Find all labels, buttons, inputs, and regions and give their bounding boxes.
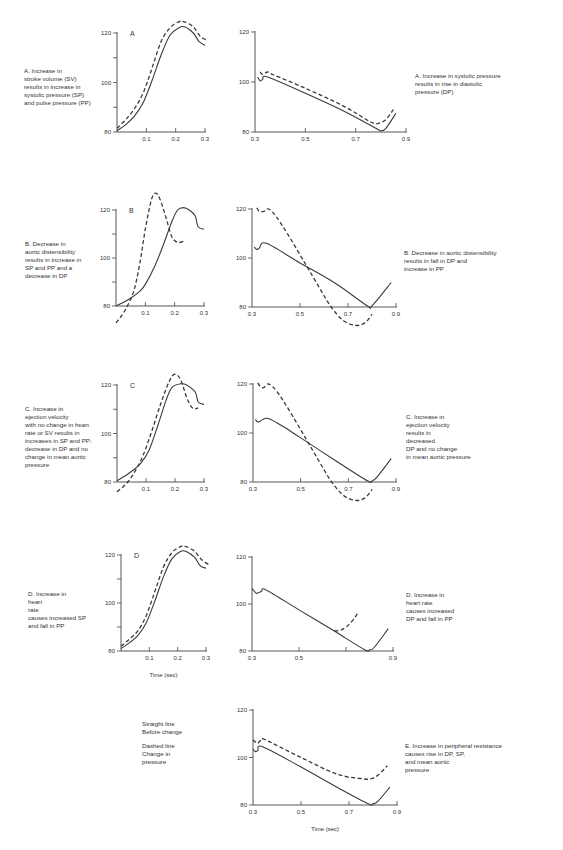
y-tick-label: 80 bbox=[104, 479, 111, 485]
y-tick-label: 100 bbox=[101, 80, 112, 86]
x-tick-label: 0.3 bbox=[248, 311, 257, 317]
x-tick-label: 0.7 bbox=[344, 311, 353, 317]
y-tick-label: 120 bbox=[105, 552, 116, 558]
legend-dashed-line: Dashed line Change in pressure bbox=[142, 742, 175, 766]
caption-e-right: E. Increase in peripheral resistance cau… bbox=[405, 742, 502, 774]
legend-solid-line: Straight line Before change bbox=[142, 720, 182, 736]
x-tick-label: 0.5 bbox=[297, 809, 306, 815]
chart-D-diastole: 801001200.50.90.3 bbox=[236, 554, 398, 661]
y-tick-label: 80 bbox=[239, 304, 246, 310]
x-tick-label: 0.3 bbox=[249, 486, 258, 492]
chart-D-systole: 801001200.10.20.3DTime (sec) bbox=[105, 546, 211, 678]
y-tick-label: 100 bbox=[105, 600, 116, 606]
x-tick-label: 0.5 bbox=[296, 311, 305, 317]
solid-curve-before-change bbox=[252, 589, 388, 652]
solid-curve-before-change bbox=[258, 76, 396, 131]
x-tick-label: 0.1 bbox=[142, 136, 151, 142]
solid-curve-before-change bbox=[117, 384, 204, 481]
chart-C-systole: 801001200.10.20.3C bbox=[101, 374, 209, 492]
x-tick-label: 0.1 bbox=[142, 486, 151, 492]
y-tick-label: 100 bbox=[101, 431, 112, 437]
caption-c-right: C. Increase in ejection velocity results… bbox=[406, 413, 471, 461]
y-tick-label: 100 bbox=[236, 601, 247, 607]
caption-d-right: D. Increase in heart rate causes increas… bbox=[406, 591, 454, 623]
x-tick-label: 0.3 bbox=[200, 310, 209, 316]
solid-curve-before-change bbox=[255, 418, 391, 482]
y-tick-label: 100 bbox=[237, 430, 248, 436]
x-tick-label: 0.5 bbox=[301, 136, 310, 142]
x-tick-label: 0.1 bbox=[141, 310, 150, 316]
x-tick-label: 0.3 bbox=[248, 655, 257, 661]
dashed-curve-after-change bbox=[116, 193, 184, 323]
caption-b-left: B. Decrease in aortic distensibility res… bbox=[25, 240, 81, 280]
caption-c-left: C. Increase in ejection velocity with no… bbox=[25, 405, 92, 469]
x-tick-label: 0.5 bbox=[296, 486, 305, 492]
y-tick-label: 120 bbox=[101, 30, 112, 36]
x-tick-label: 0.9 bbox=[392, 311, 401, 317]
dashed-curve-after-change bbox=[258, 383, 372, 501]
x-tick-label: 0.3 bbox=[202, 655, 211, 661]
x-tick-label: 0.9 bbox=[392, 486, 401, 492]
dashed-curve-after-change bbox=[121, 546, 209, 646]
x-tick-label: 0.7 bbox=[351, 136, 360, 142]
panel-label: A bbox=[130, 30, 135, 37]
x-tick-label: 0.5 bbox=[295, 655, 304, 661]
panel-label: D bbox=[134, 552, 139, 559]
solid-curve-before-change bbox=[116, 208, 204, 306]
x-tick-label: 0.9 bbox=[389, 655, 398, 661]
y-tick-label: 120 bbox=[236, 554, 247, 560]
solid-curve-before-change bbox=[253, 746, 390, 805]
y-tick-label: 80 bbox=[240, 479, 247, 485]
chart-E-diastole: 801001200.50.70.90.3Time (sec) bbox=[237, 707, 402, 832]
chart-A-diastole: 801001200.50.70.90.3 bbox=[239, 29, 411, 142]
chart-A-systole: 801001200.10.20.3A bbox=[101, 21, 210, 142]
x-axis-title: Time (sec) bbox=[149, 672, 177, 678]
dashed-curve-after-change bbox=[117, 374, 198, 492]
y-tick-label: 120 bbox=[101, 382, 112, 388]
solid-curve-before-change bbox=[121, 551, 206, 649]
x-tick-label: 0.2 bbox=[171, 136, 180, 142]
y-tick-label: 100 bbox=[237, 755, 248, 761]
y-tick-label: 80 bbox=[240, 802, 247, 808]
y-tick-label: 120 bbox=[237, 381, 248, 387]
y-tick-label: 80 bbox=[239, 648, 246, 654]
dashed-curve-after-change bbox=[260, 72, 393, 124]
y-tick-label: 120 bbox=[100, 207, 111, 213]
panel-label: C bbox=[130, 382, 135, 389]
panel-label: B bbox=[129, 207, 134, 214]
x-tick-label: 0.7 bbox=[344, 486, 353, 492]
dashed-curve-after-change bbox=[117, 21, 208, 128]
chart-B-systole: 801001200.10.20.3B bbox=[100, 193, 209, 323]
caption-b-right: B. Decrease in aortic distensibility res… bbox=[404, 249, 497, 273]
solid-curve-before-change bbox=[254, 243, 391, 309]
chart-B-diastole: 801001200.50.70.90.3 bbox=[236, 206, 401, 325]
caption-a-left: A. Increase in stroke volume (SV) result… bbox=[24, 67, 91, 107]
y-tick-label: 100 bbox=[236, 255, 247, 261]
x-tick-label: 0.2 bbox=[171, 486, 180, 492]
x-tick-label: 0.7 bbox=[345, 809, 354, 815]
dashed-curve-after-change bbox=[253, 739, 387, 780]
y-tick-label: 80 bbox=[103, 303, 110, 309]
caption-a-right: A. Increase in systolic pressure results… bbox=[415, 72, 501, 96]
x-tick-label: 0.9 bbox=[393, 809, 402, 815]
y-tick-label: 120 bbox=[237, 707, 248, 713]
chart-C-diastole: 801001200.50.70.90.3 bbox=[237, 381, 401, 500]
aortic-pressure-figure: 801001200.10.20.3A801001200.50.70.90.380… bbox=[0, 0, 563, 850]
y-tick-label: 120 bbox=[239, 29, 250, 35]
y-tick-label: 80 bbox=[242, 129, 249, 135]
y-tick-label: 80 bbox=[108, 648, 115, 654]
x-tick-label: 0.3 bbox=[201, 136, 210, 142]
x-tick-label: 0.3 bbox=[251, 136, 260, 142]
dashed-curve-after-change bbox=[257, 208, 372, 326]
x-tick-label: 0.3 bbox=[249, 809, 258, 815]
y-tick-label: 80 bbox=[104, 129, 111, 135]
x-tick-label: 0.1 bbox=[145, 655, 154, 661]
caption-d-left: D. Increase in heart rate causes increas… bbox=[28, 590, 86, 630]
dashed-curve-after-change bbox=[334, 612, 358, 631]
x-tick-label: 0.3 bbox=[200, 486, 209, 492]
x-axis-title: Time (sec) bbox=[311, 826, 339, 832]
x-tick-label: 0.9 bbox=[402, 136, 411, 142]
y-tick-label: 120 bbox=[236, 206, 247, 212]
x-tick-label: 0.2 bbox=[173, 655, 182, 661]
y-tick-label: 100 bbox=[239, 79, 250, 85]
